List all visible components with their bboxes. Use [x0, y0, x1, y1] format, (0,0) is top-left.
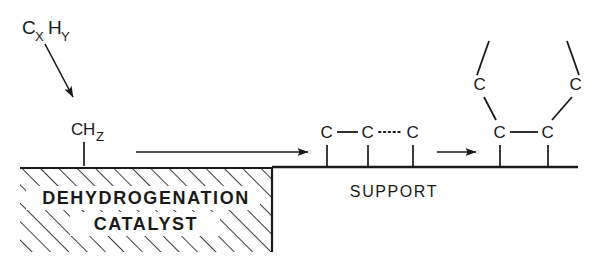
carbon-chain-stage: C C C [321, 123, 420, 166]
adsorbed-label-h: H [83, 120, 96, 139]
adsorption-arrow [45, 44, 73, 97]
reactant-formula-sub-y: Y [61, 29, 70, 44]
adsorbed-label-c: C [71, 120, 84, 139]
diagram-canvas: C X H Y C H Z DEHYDROGENATION CATALYST S… [0, 0, 600, 268]
catalyst-label-line1: DEHYDROGENATION [42, 188, 250, 208]
ring-bond-left-diagonal [484, 97, 496, 120]
ring-open-bond-left [477, 41, 489, 75]
chain-atom-1: C [321, 123, 334, 142]
dehydrogenation-catalyst-block: DEHYDROGENATION CATALYST [20, 168, 272, 252]
ring-bond-right-diagonal [552, 97, 572, 120]
ring-atom-lower-left: C [494, 123, 507, 142]
catalyst-label-line2: CATALYST [94, 214, 198, 234]
carbon-ring-stage: C C C C [474, 41, 583, 166]
adsorbed-label-sub-z: Z [96, 129, 104, 144]
chain-atom-3: C [407, 123, 420, 142]
ring-atom-upper-right: C [570, 75, 583, 94]
chain-atom-2: C [362, 123, 375, 142]
reactant-formula-sub-x: X [35, 29, 44, 44]
ring-atom-upper-left: C [474, 75, 487, 94]
support-label: SUPPORT [350, 183, 438, 200]
ring-open-bond-right [567, 41, 579, 75]
ring-atom-lower-right: C [542, 123, 555, 142]
reaction-schematic-svg: C X H Y C H Z DEHYDROGENATION CATALYST S… [0, 0, 600, 268]
